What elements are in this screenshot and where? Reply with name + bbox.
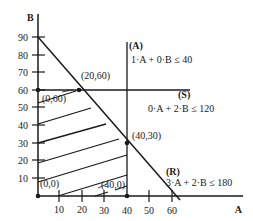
feasible-region-diagram: B A 90 80 70 60 50 40 30 20 10 10 20 30 … — [0, 0, 253, 221]
x-tick-labels: 10 20 30 40 50 60 — [54, 204, 177, 216]
vertex-label-0-60: (0,60) — [42, 93, 66, 105]
svg-text:50: 50 — [144, 205, 154, 216]
svg-text:90: 90 — [18, 32, 28, 43]
svg-text:80: 80 — [18, 50, 28, 61]
svg-text:60: 60 — [18, 85, 28, 96]
x-axis-label: A — [235, 204, 243, 215]
constraint-s-expr: 0·A + 2·B ≤ 120 — [148, 103, 214, 114]
svg-text:30: 30 — [99, 205, 109, 216]
svg-text:10: 10 — [54, 204, 64, 215]
svg-text:50: 50 — [18, 102, 28, 113]
svg-text:10: 10 — [18, 173, 28, 184]
svg-text:30: 30 — [18, 138, 28, 149]
svg-text:70: 70 — [18, 67, 28, 78]
constraint-a-id: (A) — [129, 40, 143, 52]
svg-text:20: 20 — [77, 204, 87, 215]
vertex-label-40-0: (40,0) — [101, 179, 125, 191]
constraint-a-expr: 1·A + 0·B ≤ 40 — [131, 54, 192, 65]
vertex-label-20-60: (20,60) — [81, 70, 110, 82]
y-tick-labels: 90 80 70 60 50 40 30 20 10 — [18, 32, 28, 184]
svg-text:60: 60 — [167, 205, 177, 216]
vertex-label-40-30: (40,30) — [132, 130, 161, 142]
svg-text:40: 40 — [122, 205, 132, 216]
svg-text:40: 40 — [18, 120, 28, 131]
constraint-r-expr: 3·A + 2·B ≤ 180 — [166, 177, 232, 188]
svg-text:20: 20 — [18, 155, 28, 166]
vertex-label-0-0: (0,0) — [40, 178, 59, 190]
constraint-s-id: (S) — [178, 89, 190, 101]
y-axis-label: B — [27, 12, 34, 23]
